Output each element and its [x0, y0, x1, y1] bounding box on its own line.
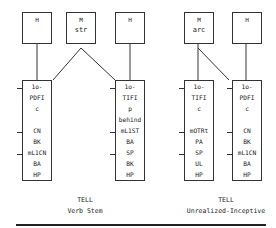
box-label: M: [67, 16, 95, 23]
feature-row: p: [116, 103, 144, 114]
feature-row: UL: [185, 158, 213, 169]
feature-row: c: [23, 103, 51, 114]
feature-row: BA: [116, 136, 144, 147]
feature-column-1: 1o- PDFI c CN BK mL1CN BA HP: [22, 80, 52, 181]
feature-row: PDFI: [233, 92, 261, 103]
feature-row: SP: [116, 147, 144, 158]
top-box-m-str: M str: [66, 12, 96, 44]
feature-row: BK: [23, 136, 51, 147]
top-box-m-arc: M arc: [184, 12, 214, 44]
feature-row: BA: [23, 158, 51, 169]
feature-column-3: 1o- TIFI c mOTRt PA SP UL HP: [184, 80, 214, 181]
feature-row: mL1CN: [233, 147, 261, 158]
feature-row: behind: [116, 114, 144, 125]
box-label: H: [116, 16, 144, 23]
feature-row: PA: [185, 136, 213, 147]
caption-subtitle: Verb Stem: [30, 207, 140, 215]
feature-row: [185, 114, 213, 125]
feature-row: BK: [116, 158, 144, 169]
feature-row: BA: [233, 158, 261, 169]
top-box-h-1: H: [22, 12, 52, 44]
feature-row: mL1ST: [116, 125, 144, 136]
feature-row: 1o-: [233, 81, 261, 92]
top-box-h-2: H: [115, 12, 145, 44]
feature-row: c: [233, 103, 261, 114]
caption-title: TELL: [30, 196, 140, 204]
box-label: M: [185, 16, 213, 23]
caption-title: TELL: [176, 196, 276, 204]
feature-row: CN: [23, 125, 51, 136]
feature-row: 1o-: [116, 81, 144, 92]
feature-row: [233, 114, 261, 125]
feature-row: HP: [233, 169, 261, 180]
feature-row: BK: [233, 136, 261, 147]
top-box-h-3: H: [232, 12, 262, 44]
feature-row: SP: [185, 147, 213, 158]
feature-column-4: 1o- PDFI c CN BK mL1CN BA HP: [232, 80, 262, 181]
box-label: H: [23, 16, 51, 23]
box-sublabel: str: [67, 27, 95, 34]
feature-row: TIFI: [116, 92, 144, 103]
feature-row: mL1CN: [23, 147, 51, 158]
feature-row: PDFI: [23, 92, 51, 103]
box-label: H: [233, 16, 261, 23]
caption-verb-stem: TELL Verb Stem: [30, 196, 140, 215]
feature-row: TIFI: [185, 92, 213, 103]
feature-row: HP: [23, 169, 51, 180]
feature-row: 1o-: [23, 81, 51, 92]
feature-row: mOTRt: [185, 125, 213, 136]
feature-column-2: 1o- TIFI p behind mL1ST BA SP BK HP: [115, 80, 145, 181]
box-sublabel: arc: [185, 27, 213, 34]
feature-row: CN: [233, 125, 261, 136]
feature-row: [23, 114, 51, 125]
feature-row: HP: [116, 169, 144, 180]
caption-unrealized-inceptive: TELL Unrealized-Inceptive: [176, 196, 276, 215]
feature-row: c: [185, 103, 213, 114]
caption-subtitle: Unrealized-Inceptive: [176, 207, 276, 215]
feature-row: HP: [185, 169, 213, 180]
feature-row: 1o-: [185, 81, 213, 92]
